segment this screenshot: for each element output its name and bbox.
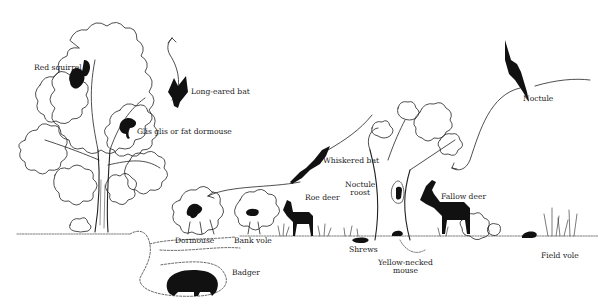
label-noctule: Noctule [523,95,553,103]
glis-glis-silhouette [119,118,136,139]
label-badger: Badger [232,269,260,277]
label-red-squirrel: Red squirrel [34,64,82,72]
label-field-vole: Field vole [541,252,579,260]
badger-silhouette [167,270,218,296]
label-long-eared-bat: Long-eared bat [191,88,250,96]
illustration [0,0,598,305]
whiskered-bat-flight-path-up [328,115,372,150]
label-yellow-necked-mouse: Yellow-necked mouse [378,259,433,275]
label-roe-deer: Roe deer [305,194,340,202]
field-vole-silhouette [522,232,537,238]
whiskered-bat-flight-path [208,182,300,196]
shrew-silhouette [352,238,369,243]
yellow-necked-mouse-silhouette [392,231,403,236]
noctule-roost-silhouette [396,187,402,200]
label-whiskered-bat: Whiskered bat [323,157,379,165]
label-dormouse: Dormouse [175,237,214,245]
label-fallow-deer: Fallow deer [441,193,486,201]
long-eared-bat-silhouette [168,76,188,108]
mouse-burrow [400,240,425,252]
whiskered-bat-silhouette [290,146,330,184]
fallow-deer-silhouette [420,180,470,234]
label-shrews: Shrews [349,246,378,254]
label-bank-vole: Bank vole [234,237,272,245]
woodland-mammals-diagram: Red squirrel Long-eared bat Glis glis or… [0,0,598,305]
noctule-flight-path [452,88,520,170]
label-noctule-roost: Noctule roost [345,181,375,197]
dormouse-silhouette [187,204,202,218]
bank-vole-silhouette [246,209,259,216]
label-glis-glis: Glis glis or fat dormouse [137,128,232,136]
